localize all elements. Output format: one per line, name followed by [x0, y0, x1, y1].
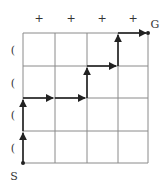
top-marker: + [66, 12, 75, 25]
top-marker: + [97, 12, 106, 25]
start-point [21, 161, 25, 165]
goal-point [146, 31, 150, 35]
start-label: S [10, 170, 18, 183]
goal-label: G [151, 18, 160, 31]
left-markers: ( ( ( ( [11, 44, 15, 155]
left-marker: ( [11, 142, 15, 155]
top-marker: + [128, 12, 137, 25]
left-marker: ( [11, 44, 15, 57]
top-marker: + [34, 12, 43, 25]
left-marker: ( [11, 109, 15, 122]
top-markers: + + + + [34, 12, 137, 25]
left-marker: ( [11, 77, 15, 90]
lattice-path-diagram: + + + + ( ( ( ( G S [0, 0, 167, 186]
